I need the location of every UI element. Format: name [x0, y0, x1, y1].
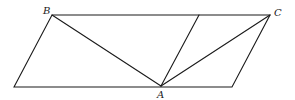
label-a: A: [156, 89, 164, 100]
label-b: B: [42, 5, 50, 16]
segment-a-c: [161, 15, 270, 86]
segment-a-top-point: [161, 15, 199, 86]
parallelogram: [14, 15, 270, 87]
label-c: C: [274, 7, 282, 18]
geometry-diagram: B C A: [0, 0, 295, 100]
segment-a-b: [52, 15, 161, 86]
